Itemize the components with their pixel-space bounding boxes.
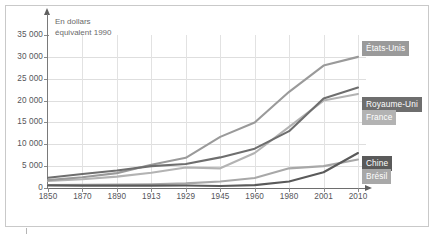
chart-root: 35 00030 00025 00020 00015 00010 0005 00…	[0, 0, 436, 240]
legend-item-france[interactable]: France	[362, 110, 396, 125]
legend-item--tats-unis[interactable]: États-Unis	[362, 41, 409, 56]
series-line-royaume-uni	[48, 87, 358, 177]
series-line-france	[48, 94, 358, 181]
legend-item-br-sil[interactable]: Brésil	[362, 169, 391, 184]
series-line-chine	[48, 153, 358, 186]
